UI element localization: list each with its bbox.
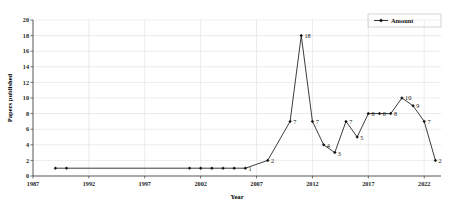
y-tick-label: 4 bbox=[26, 141, 29, 148]
data-point-label: 5 bbox=[360, 134, 363, 141]
x-tick-label: 1992 bbox=[83, 180, 95, 187]
data-point-label: 1 bbox=[248, 165, 251, 172]
data-point-marker bbox=[378, 112, 381, 115]
y-axis-title: Papers published bbox=[6, 73, 13, 122]
data-point-label: 7 bbox=[427, 118, 430, 125]
data-point-label: 7 bbox=[293, 118, 296, 125]
data-point-marker bbox=[300, 34, 303, 37]
data-point-label: 4 bbox=[327, 142, 330, 149]
data-point-label: 7 bbox=[349, 118, 352, 125]
line-chart: 02468101214161820 1987199219972002200720… bbox=[0, 0, 449, 213]
y-tick-label: 6 bbox=[26, 125, 29, 132]
y-tick-label: 10 bbox=[23, 94, 29, 101]
y-tick-label: 2 bbox=[26, 157, 29, 164]
x-axis-title: Year bbox=[230, 193, 243, 200]
y-tick-group: 02468101214161820 bbox=[23, 16, 33, 179]
x-tick-group: 19871992199720022007201220172022 bbox=[27, 176, 431, 187]
chart-container: 02468101214161820 1987199219972002200720… bbox=[0, 0, 449, 213]
x-tick-label: 2002 bbox=[194, 180, 206, 187]
data-point-marker bbox=[233, 167, 236, 170]
data-point-marker bbox=[311, 120, 314, 123]
data-point-label: 18 bbox=[304, 32, 310, 39]
x-tick-label: 1987 bbox=[27, 180, 39, 187]
data-point-label: 2 bbox=[438, 157, 441, 164]
data-point-label: 7 bbox=[316, 118, 319, 125]
y-tick-label: 14 bbox=[23, 63, 29, 70]
data-point-label: 3 bbox=[338, 150, 341, 157]
data-point-marker bbox=[367, 112, 370, 115]
gridlines-group bbox=[33, 20, 441, 176]
data-point-marker bbox=[188, 167, 191, 170]
y-tick-label: 8 bbox=[26, 110, 29, 117]
chart-legend: Amount bbox=[368, 14, 441, 27]
data-point-label: 2 bbox=[271, 157, 274, 164]
x-tick-label: 1997 bbox=[139, 180, 151, 187]
data-point-label: 8 bbox=[394, 110, 397, 117]
data-point-marker bbox=[210, 167, 213, 170]
y-tick-label: 12 bbox=[23, 79, 29, 86]
y-tick-label: 0 bbox=[26, 172, 29, 179]
series-polyline bbox=[55, 36, 435, 169]
data-point-label: 8 bbox=[372, 110, 375, 117]
legend-entry-label: Amount bbox=[391, 17, 414, 24]
data-point-marker bbox=[65, 167, 68, 170]
legend-marker-icon bbox=[379, 19, 383, 23]
data-point-marker bbox=[244, 167, 247, 170]
data-point-label: 9 bbox=[416, 102, 419, 109]
y-tick-label: 16 bbox=[23, 47, 29, 54]
data-point-marker bbox=[222, 167, 225, 170]
x-tick-label: 2022 bbox=[418, 180, 430, 187]
data-point-marker bbox=[434, 159, 437, 162]
point-label-group: 127187437588810972 bbox=[248, 32, 441, 172]
data-point-label: 8 bbox=[383, 110, 386, 117]
data-point-marker bbox=[54, 167, 57, 170]
x-tick-label: 2007 bbox=[250, 180, 262, 187]
x-tick-label: 2017 bbox=[362, 180, 374, 187]
data-point-marker bbox=[199, 167, 202, 170]
x-tick-label: 2012 bbox=[306, 180, 318, 187]
y-tick-label: 20 bbox=[23, 16, 29, 23]
series-amount bbox=[54, 34, 437, 170]
y-tick-label: 18 bbox=[23, 32, 29, 39]
data-point-label: 10 bbox=[405, 94, 411, 101]
